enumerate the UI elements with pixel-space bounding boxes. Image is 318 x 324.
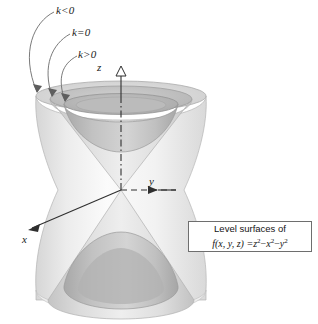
axis-label-z: z: [97, 61, 101, 73]
axis-label-x: x: [22, 233, 27, 245]
caption-formula: f(x, y, z) =z2−x2−y2: [212, 235, 288, 250]
level-surfaces-figure: k<0 k=0 k>0 z y x Level surfaces of f(x,…: [0, 0, 318, 324]
axis-z-arrowhead: [116, 66, 126, 76]
callout-label-k-negative: k<0: [56, 4, 74, 16]
axis-label-y: y: [149, 175, 154, 187]
level-surfaces-graphic: [0, 0, 318, 324]
caption-title: Level surfaces of: [214, 223, 286, 235]
axis-x-arrowhead: [28, 224, 40, 232]
formula-term3-exponent: 2: [284, 237, 288, 245]
leader-line-k-negative: [29, 12, 54, 92]
callout-label-k-zero: k=0: [72, 26, 90, 38]
caption-box: Level surfaces of f(x, y, z) =z2−x2−y2: [188, 221, 312, 252]
callout-label-k-positive: k>0: [78, 48, 96, 60]
formula-lhs: f(x, y, z) =: [212, 238, 253, 249]
